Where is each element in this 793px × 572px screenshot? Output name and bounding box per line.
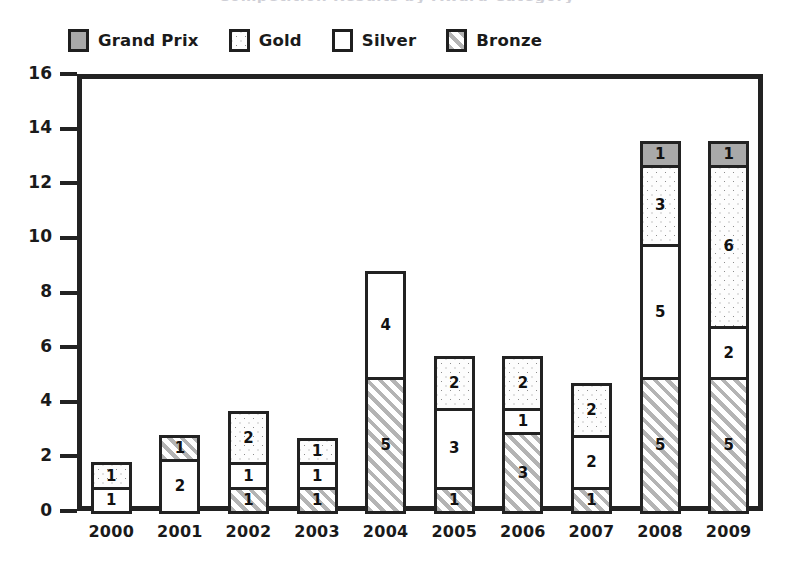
bar-stack: 5261 xyxy=(708,141,749,511)
bar-segment-gold[interactable]: 2 xyxy=(228,411,269,466)
x-axis: 2000200120022003200420052006200720082009 xyxy=(77,516,763,546)
x-axis-tick-label-2006: 2006 xyxy=(489,522,558,541)
bar-segment-gold[interactable]: 2 xyxy=(502,356,543,411)
bar-segment-value-label: 2 xyxy=(518,376,528,391)
x-axis-tick-label-2007: 2007 xyxy=(557,522,626,541)
legend-label: Silver xyxy=(362,31,416,50)
bar-segment-silver[interactable]: 2 xyxy=(708,326,749,381)
bar-segment-gold[interactable]: 2 xyxy=(571,383,612,438)
legend-entry-grand-prix[interactable]: Grand Prix xyxy=(68,29,199,52)
y-axis-tick-mark xyxy=(60,127,77,131)
bar-stack: 21 xyxy=(159,435,200,511)
y-axis-tick-label: 16 xyxy=(28,65,52,82)
bar-segment-silver[interactable]: 5 xyxy=(640,244,681,381)
y-axis-tick-mark xyxy=(60,345,77,349)
y-axis-tick-mark xyxy=(60,291,77,295)
bar-segment-silver[interactable]: 2 xyxy=(571,435,612,490)
bar-segment-bronze[interactable]: 3 xyxy=(502,432,543,514)
chart-legend: Grand PrixGoldSilverBronze xyxy=(68,27,572,53)
legend-entry-bronze[interactable]: Bronze xyxy=(446,29,542,52)
bar-segment-value-label: 1 xyxy=(723,147,733,162)
bar-segment-gold[interactable]: 6 xyxy=(708,165,749,329)
bar-segment-silver[interactable]: 2 xyxy=(159,459,200,514)
legend-entry-gold[interactable]: Gold xyxy=(229,29,302,52)
bar-column-2006[interactable]: 312 xyxy=(502,347,543,511)
bar-segment-silver[interactable]: 4 xyxy=(365,271,406,380)
bar-segment-silver[interactable]: 3 xyxy=(434,408,475,490)
bar-segment-value-label: 1 xyxy=(243,493,253,508)
x-axis-tick-label-2003: 2003 xyxy=(283,522,352,541)
bar-column-2008[interactable]: 5531 xyxy=(640,129,681,511)
bar-segment-value-label: 1 xyxy=(518,414,528,429)
bar-segment-bronze[interactable]: 5 xyxy=(708,377,749,514)
legend-swatch-bronze-icon xyxy=(446,29,467,52)
bar-stack: 132 xyxy=(434,356,475,511)
y-axis-tick-mark xyxy=(60,509,77,513)
bar-segment-silver[interactable]: 1 xyxy=(91,487,132,514)
y-axis-tick-label: 10 xyxy=(28,228,52,245)
y-axis-tick-label: 8 xyxy=(40,283,52,300)
bar-stack: 112 xyxy=(228,411,269,511)
bar-segment-bronze[interactable]: 5 xyxy=(365,377,406,514)
bar-column-2004[interactable]: 54 xyxy=(365,265,406,511)
bar-segment-silver[interactable]: 1 xyxy=(228,462,269,489)
bars-layer: 11211121115413231212255315261 xyxy=(77,74,763,511)
x-axis-tick-label-2001: 2001 xyxy=(146,522,215,541)
legend-swatch-silver-icon xyxy=(332,29,353,52)
bar-column-2003[interactable]: 111 xyxy=(297,429,338,511)
bar-segment-gold[interactable]: 2 xyxy=(434,356,475,411)
bar-segment-silver[interactable]: 1 xyxy=(502,408,543,435)
bar-segment-value-label: 5 xyxy=(655,438,665,453)
bar-segment-bronze[interactable]: 1 xyxy=(434,487,475,514)
y-axis-tick-label: 12 xyxy=(28,174,52,191)
y-axis-tick-label: 4 xyxy=(40,392,52,409)
bar-segment-value-label: 1 xyxy=(243,469,253,484)
bar-segment-value-label: 3 xyxy=(518,466,528,481)
bar-segment-value-label: 1 xyxy=(106,493,116,508)
bar-column-2002[interactable]: 112 xyxy=(228,402,269,511)
bar-column-2001[interactable]: 21 xyxy=(159,429,200,511)
bar-segment-value-label: 1 xyxy=(449,493,459,508)
bar-segment-bronze[interactable]: 1 xyxy=(571,487,612,514)
bar-segment-value-label: 3 xyxy=(449,441,459,456)
bar-segment-value-label: 2 xyxy=(723,346,733,361)
bar-segment-value-label: 5 xyxy=(655,305,665,320)
legend-swatch-gold-icon xyxy=(229,29,250,52)
x-axis-tick-label-2000: 2000 xyxy=(77,522,146,541)
y-axis-tick-mark xyxy=(60,181,77,185)
legend-entry-silver[interactable]: Silver xyxy=(332,29,416,52)
bar-segment-value-label: 3 xyxy=(655,198,665,213)
bar-column-2005[interactable]: 132 xyxy=(434,347,475,511)
bar-segment-bronze[interactable]: 1 xyxy=(159,435,200,462)
y-axis-tick-label: 14 xyxy=(28,119,52,136)
stacked-bar-chart: Competition Results by Award Category Gr… xyxy=(0,0,793,572)
bar-segment-value-label: 2 xyxy=(586,455,596,470)
y-axis-tick-mark xyxy=(60,400,77,404)
bar-column-2009[interactable]: 5261 xyxy=(708,129,749,511)
bar-column-2007[interactable]: 122 xyxy=(571,374,612,511)
y-axis-tick-label: 2 xyxy=(40,447,52,464)
bar-segment-value-label: 1 xyxy=(655,147,665,162)
bar-segment-grand-prix[interactable]: 1 xyxy=(708,141,749,168)
bar-segment-value-label: 1 xyxy=(312,444,322,459)
legend-swatch-grand-prix-icon xyxy=(68,29,89,52)
bar-segment-grand-prix[interactable]: 1 xyxy=(640,141,681,168)
bar-segment-bronze[interactable]: 5 xyxy=(640,377,681,514)
bar-segment-value-label: 6 xyxy=(723,239,733,254)
bar-stack: 111 xyxy=(297,438,338,511)
y-axis-tick-label: 6 xyxy=(40,338,52,355)
bar-segment-bronze[interactable]: 1 xyxy=(297,487,338,514)
legend-label: Bronze xyxy=(476,31,542,50)
bar-segment-value-label: 2 xyxy=(175,479,185,494)
bar-stack: 122 xyxy=(571,383,612,511)
bar-segment-gold[interactable]: 3 xyxy=(640,165,681,247)
bar-segment-bronze[interactable]: 1 xyxy=(228,487,269,514)
chart-title-cropped: Competition Results by Award Category xyxy=(0,0,793,3)
x-axis-tick-label-2002: 2002 xyxy=(214,522,283,541)
bar-segment-value-label: 2 xyxy=(243,431,253,446)
y-axis-tick-mark xyxy=(60,72,77,76)
bar-segment-silver[interactable]: 1 xyxy=(297,462,338,489)
bar-segment-gold[interactable]: 1 xyxy=(297,438,338,465)
bar-segment-gold[interactable]: 1 xyxy=(91,462,132,489)
bar-column-2000[interactable]: 11 xyxy=(91,456,132,511)
